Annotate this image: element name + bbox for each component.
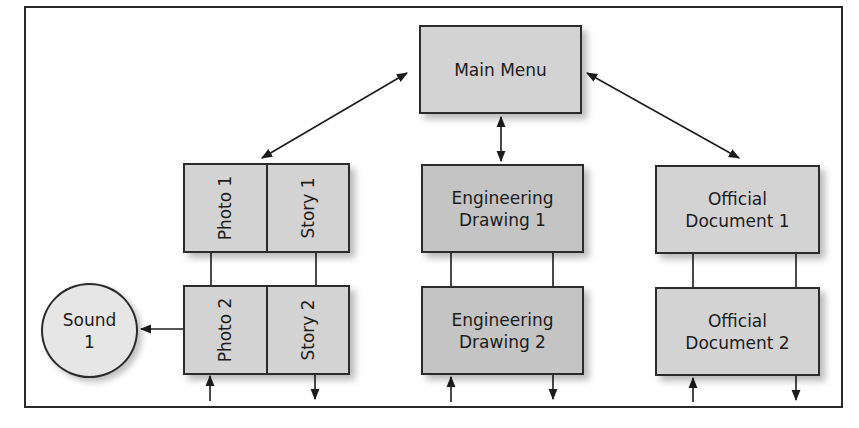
story-2-cell: Story 2 bbox=[266, 287, 349, 373]
photo-2-cell: Photo 2 bbox=[185, 287, 266, 373]
official-document-2-node: Official Document 2 bbox=[655, 287, 820, 376]
engineering-drawing-1-node: Engineering Drawing 1 bbox=[421, 164, 584, 253]
story-2-label: Story 2 bbox=[298, 299, 318, 360]
eng1-line1: Engineering bbox=[452, 187, 554, 209]
photo-story-1-node: Photo 1 Story 1 bbox=[183, 163, 350, 253]
sound-label-line1: Sound bbox=[63, 309, 117, 331]
off1-line1: Official bbox=[685, 188, 789, 210]
photo-1-cell: Photo 1 bbox=[185, 165, 266, 251]
story-1-cell: Story 1 bbox=[266, 165, 349, 251]
off1-line2: Document 1 bbox=[685, 210, 789, 232]
off2-line1: Official bbox=[685, 310, 789, 332]
engineering-drawing-2-node: Engineering Drawing 2 bbox=[421, 286, 584, 375]
eng1-line2: Drawing 1 bbox=[452, 209, 554, 231]
sound-label-line2: 1 bbox=[63, 331, 117, 353]
story-1-label: Story 1 bbox=[298, 177, 318, 238]
official-document-1-node: Official Document 1 bbox=[655, 165, 820, 254]
sound-1-node: Sound 1 bbox=[41, 283, 138, 378]
off2-line2: Document 2 bbox=[685, 332, 789, 354]
eng2-line1: Engineering bbox=[452, 309, 554, 331]
eng2-line2: Drawing 2 bbox=[452, 331, 554, 353]
photo-story-2-node: Photo 2 Story 2 bbox=[183, 285, 350, 375]
main-menu-label: Main Menu bbox=[454, 59, 547, 81]
arrow-main-to-official bbox=[587, 73, 739, 158]
main-menu-node: Main Menu bbox=[419, 25, 582, 114]
arrow-main-to-photo bbox=[262, 73, 407, 158]
photo-2-label: Photo 2 bbox=[215, 298, 235, 363]
photo-1-label: Photo 1 bbox=[215, 176, 235, 241]
